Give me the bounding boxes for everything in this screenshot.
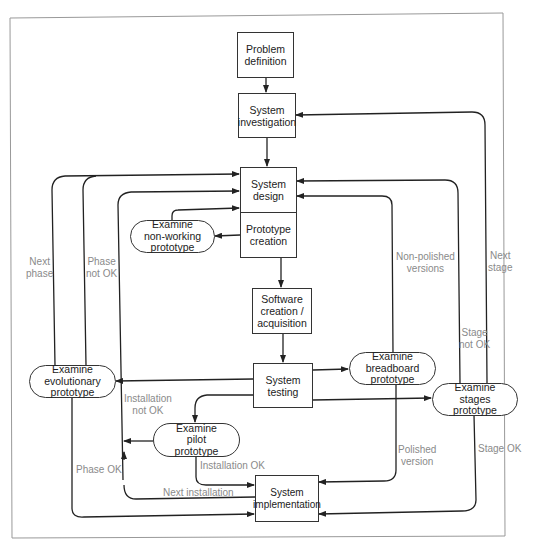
label-non-polished-versions: Non-polished versions — [396, 251, 455, 275]
label-next-phase: Next phase — [26, 256, 53, 280]
node-label: System design — [251, 178, 286, 202]
node-problem-definition: Problem definition — [237, 32, 294, 78]
node-examine-stages: Examine stages prototype — [432, 383, 518, 416]
node-system-testing: System testing — [253, 363, 313, 408]
node-examine-breadboard: Examine breadboard prototype — [349, 352, 436, 385]
label-next-installation: Next installation — [163, 487, 234, 499]
node-label: Examine non-working prototype — [144, 219, 201, 254]
prototyping-flowchart: Problem definition System investigation … — [0, 0, 545, 549]
label-next-stage: Next stage — [488, 250, 512, 274]
node-label: System investigation — [238, 104, 296, 128]
node-label: Problem definition — [244, 43, 286, 67]
node-system-implementation: System implementation — [255, 475, 319, 522]
label-phase-ok: Phase OK — [76, 464, 122, 476]
node-label: Software creation / acquisition — [257, 293, 307, 329]
label-stage-ok: Stage OK — [478, 443, 521, 455]
node-label: Examine breadboard prototype — [366, 351, 420, 386]
node-examine-pilot: Examine pilot prototype — [153, 423, 240, 457]
node-software-creation: Software creation / acquisition — [252, 288, 312, 334]
node-label: Examine stages prototype — [453, 382, 497, 417]
node-label: Prototype creation — [246, 223, 291, 247]
node-label: System testing — [265, 374, 300, 398]
label-polished-version: Polished version — [398, 444, 436, 468]
node-prototype-creation: Prototype creation — [240, 212, 297, 258]
node-examine-non-working: Examine non-working prototype — [130, 220, 215, 253]
label-installation-ok: Installation OK — [200, 460, 265, 472]
label-installation-not-ok: Installation not OK — [124, 393, 172, 417]
node-system-design: System design — [240, 167, 297, 213]
label-phase-not-ok: Phase not OK — [86, 256, 117, 280]
node-system-investigation: System investigation — [238, 93, 296, 138]
node-label: Examine pilot prototype — [175, 423, 219, 458]
node-label: System implementation — [253, 487, 321, 511]
node-examine-evolutionary: Examine evolutionary prototype — [29, 365, 116, 398]
label-stage-not-ok: Stage not OK — [459, 327, 490, 351]
node-label: Examine evolutionary prototype — [44, 364, 101, 399]
